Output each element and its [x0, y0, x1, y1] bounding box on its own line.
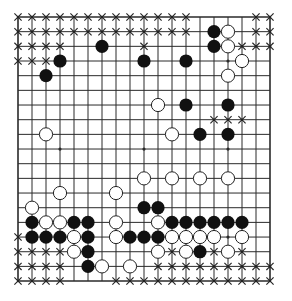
- black-stone: [81, 245, 94, 258]
- white-stone: [109, 216, 122, 229]
- white-stone: [123, 260, 136, 273]
- black-stone: [165, 216, 178, 229]
- white-stone: [179, 245, 192, 258]
- black-stone: [193, 216, 206, 229]
- star-point: [226, 147, 229, 150]
- white-stone: [221, 69, 234, 82]
- white-stone: [109, 230, 122, 243]
- white-stone: [53, 216, 66, 229]
- black-stone: [235, 216, 248, 229]
- white-stone: [67, 230, 80, 243]
- black-stone: [179, 216, 192, 229]
- black-stone: [137, 54, 150, 67]
- black-stone: [179, 54, 192, 67]
- black-stone: [151, 230, 164, 243]
- white-stone: [151, 98, 164, 111]
- black-stone: [81, 260, 94, 273]
- white-stone: [193, 172, 206, 185]
- star-point: [142, 147, 145, 150]
- white-stone: [165, 230, 178, 243]
- white-stone: [151, 245, 164, 258]
- go-board: [0, 0, 292, 301]
- black-stone: [137, 201, 150, 214]
- black-stone: [221, 216, 234, 229]
- black-stone: [67, 216, 80, 229]
- white-stone: [207, 230, 220, 243]
- black-stone: [53, 54, 66, 67]
- black-stone: [179, 98, 192, 111]
- white-stone: [165, 172, 178, 185]
- white-stone: [53, 186, 66, 199]
- white-stone: [221, 25, 234, 38]
- black-stone: [25, 230, 38, 243]
- black-stone: [25, 216, 38, 229]
- white-stone: [137, 172, 150, 185]
- black-stone: [137, 230, 150, 243]
- black-stone: [221, 98, 234, 111]
- white-stone: [165, 128, 178, 141]
- black-stone: [81, 230, 94, 243]
- black-stone: [193, 128, 206, 141]
- white-stone: [221, 245, 234, 258]
- white-stone: [221, 40, 234, 53]
- white-stone: [39, 128, 52, 141]
- black-stone: [39, 230, 52, 243]
- black-stone: [81, 216, 94, 229]
- black-stone: [123, 230, 136, 243]
- white-stone: [235, 54, 248, 67]
- white-stone: [193, 230, 206, 243]
- black-stone: [207, 25, 220, 38]
- star-point: [226, 59, 229, 62]
- star-point: [58, 147, 61, 150]
- black-stone: [207, 216, 220, 229]
- white-stone: [221, 172, 234, 185]
- white-stone: [39, 216, 52, 229]
- white-stone: [235, 230, 248, 243]
- black-stone: [193, 245, 206, 258]
- white-stone: [151, 216, 164, 229]
- star-point: [226, 235, 229, 238]
- white-stone: [67, 245, 80, 258]
- white-stone: [179, 230, 192, 243]
- white-stone: [109, 186, 122, 199]
- black-stone: [221, 128, 234, 141]
- black-stone: [53, 230, 66, 243]
- white-stone: [25, 201, 38, 214]
- black-stone: [39, 69, 52, 82]
- white-stone: [95, 260, 108, 273]
- black-stone: [207, 40, 220, 53]
- black-stone: [95, 40, 108, 53]
- black-stone: [151, 201, 164, 214]
